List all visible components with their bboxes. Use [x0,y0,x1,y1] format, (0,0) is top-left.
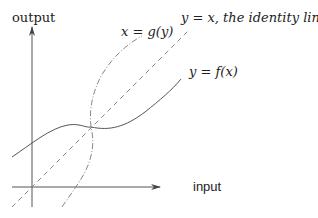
g-curve-label: x = g(y) [121,25,173,38]
y-axis-label: output [12,11,55,24]
identity-line [12,29,190,207]
x-axis-label: input [193,180,221,193]
f-curve [12,79,181,157]
identity-line-label: y = x, the identity line [181,11,318,24]
f-curve-label: y = f(x) [189,65,238,78]
